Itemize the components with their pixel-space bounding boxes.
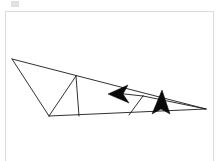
inner-chord-upper (143, 96, 206, 109)
canvas-frame (5, 11, 214, 161)
vertical-divider (76, 76, 79, 116)
outer-triangle-group (12, 59, 206, 116)
upper-long-edge (12, 59, 206, 109)
figure-page (0, 0, 220, 161)
left-diagonal-to-topmid (49, 76, 76, 116)
arrow-marker-group (108, 85, 170, 114)
bottom-long-edge (49, 109, 206, 116)
up-pointing-arrowhead-icon (152, 90, 170, 114)
geometric-line-figure (5, 11, 214, 161)
faint-gray-mark-icon (11, 1, 19, 7)
